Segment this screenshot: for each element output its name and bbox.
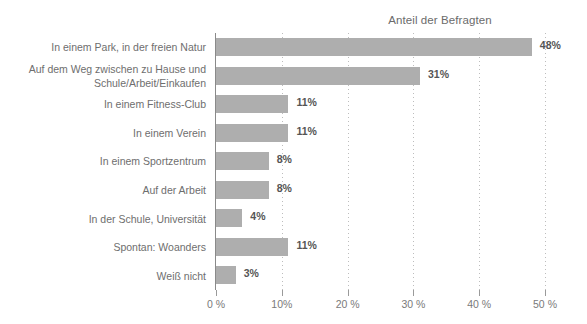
bar-value-label: 3% <box>244 267 259 279</box>
tick-label: 0 % <box>207 298 225 310</box>
category-label-text: In der Schule, Universität <box>89 212 206 226</box>
bar-row: 8% <box>216 176 545 205</box>
category-label-text: In einem Sportzentrum <box>100 154 206 168</box>
category-label-1: In einem Park, in der freien Natur <box>0 33 206 62</box>
bar[interactable] <box>216 67 420 85</box>
bar-chart: Anteil der Befragten In einem Park, in d… <box>0 0 587 324</box>
category-label-3: In einem Fitness-Club <box>0 90 206 119</box>
bar-row: 8% <box>216 147 545 176</box>
bar-value-label: 4% <box>250 210 265 222</box>
tick-label: 30 % <box>401 298 425 310</box>
bar[interactable] <box>216 181 269 199</box>
category-label-6: Auf der Arbeit <box>0 176 206 205</box>
tick-mark <box>216 290 217 296</box>
gridline <box>545 33 546 290</box>
bar-row: 48% <box>216 33 545 62</box>
tick-mark <box>479 290 480 296</box>
bar-row: 3% <box>216 261 545 290</box>
chart-title: Anteil der Befragten <box>330 14 550 26</box>
tick-label: 10% <box>271 298 292 310</box>
bar[interactable] <box>216 152 269 170</box>
category-label-text: Weiß nicht <box>157 269 206 283</box>
category-label-text: Auf dem Weg zwischen zu Hause undSchule/… <box>29 62 206 90</box>
bar[interactable] <box>216 38 532 56</box>
tick-mark <box>348 290 349 296</box>
category-label-text: Auf der Arbeit <box>142 183 206 197</box>
bar-row: 11% <box>216 233 545 262</box>
bar-row: 4% <box>216 204 545 233</box>
bar-value-label: 8% <box>277 153 292 165</box>
bar-value-label: 48% <box>540 39 561 51</box>
tick-label: 40 % <box>467 298 491 310</box>
bar-value-label: 11% <box>296 239 316 251</box>
tick-label: 50 % <box>533 298 557 310</box>
bar-value-label: 11% <box>296 125 316 137</box>
category-label-4: In einem Verein <box>0 119 206 148</box>
bar-value-label: 31% <box>428 68 449 80</box>
bar-row: 11% <box>216 119 545 148</box>
bar[interactable] <box>216 209 242 227</box>
category-label-text: Spontan: Woanders <box>113 240 206 254</box>
tick-mark <box>282 290 283 296</box>
category-label-text: In einem Fitness-Club <box>104 97 206 111</box>
bar-value-label: 11% <box>296 96 316 108</box>
category-label-text: In einem Verein <box>133 126 206 140</box>
category-label-7: In der Schule, Universität <box>0 204 206 233</box>
category-axis-labels: In einem Park, in der freien NaturAuf de… <box>0 33 206 290</box>
category-label-2: Auf dem Weg zwischen zu Hause undSchule/… <box>0 62 206 91</box>
category-label-8: Spontan: Woanders <box>0 233 206 262</box>
tick-mark <box>545 290 546 296</box>
category-label-text: In einem Park, in der freien Natur <box>51 40 206 54</box>
bar[interactable] <box>216 124 288 142</box>
tick-label: 20 % <box>336 298 360 310</box>
bar[interactable] <box>216 266 236 284</box>
bar-row: 11% <box>216 90 545 119</box>
bar[interactable] <box>216 95 288 113</box>
bar-row: 31% <box>216 62 545 91</box>
tick-mark <box>413 290 414 296</box>
category-label-9: Weiß nicht <box>0 261 206 290</box>
bar-value-label: 8% <box>277 182 292 194</box>
plot-area: 0 %10%20 %30 %40 %50 % 48%31%11%11%8%8%4… <box>216 33 545 290</box>
bar[interactable] <box>216 238 288 256</box>
category-label-5: In einem Sportzentrum <box>0 147 206 176</box>
